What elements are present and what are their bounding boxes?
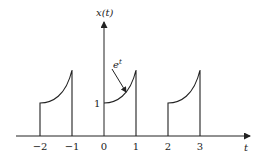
tick-label: 2 — [165, 141, 171, 152]
tick-label: −2 — [33, 141, 48, 152]
tick-label: 1 — [133, 141, 139, 152]
x-axis-label: t — [244, 142, 249, 153]
pulse-segment — [40, 70, 72, 136]
tick-label: −1 — [65, 141, 80, 152]
pulse-segment — [168, 70, 200, 136]
y-axis-label: x(t) — [96, 7, 114, 18]
tick-label: 3 — [197, 141, 203, 152]
annotation-label: et — [113, 58, 122, 70]
annotation-arrow — [112, 69, 126, 92]
level-label: 1 — [94, 98, 100, 109]
tick-label: 0 — [101, 141, 107, 152]
periodic-signal-diagram: et x(t) t 1 −2 −1 0 1 2 3 — [0, 0, 262, 158]
pulse-segment — [104, 70, 136, 136]
